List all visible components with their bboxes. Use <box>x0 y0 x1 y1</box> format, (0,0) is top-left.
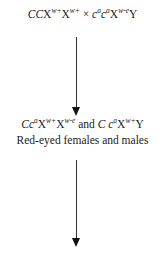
cross-symbol: × <box>83 8 90 20</box>
conjunction: and <box>78 118 95 130</box>
allele-sup: w-e <box>64 116 75 125</box>
offspring-genotypes: CcaXw+Xw-e and C caXw+Y <box>0 118 165 131</box>
allele-sup: w+ <box>51 6 61 15</box>
arrow-head-1-icon <box>72 107 80 116</box>
allele-sup: w-e <box>118 6 129 15</box>
allele-sup: w+ <box>70 6 80 15</box>
offspring-male-genotype: C caXw+Y <box>98 118 144 130</box>
parent-male-genotype: cacaXw-eY <box>92 8 137 20</box>
offspring-female-genotype: CcaXw+Xw-e <box>21 118 75 130</box>
allele: C <box>35 8 43 20</box>
arrow-shaft-1 <box>76 37 77 109</box>
parental-cross: CCXw+Xw+ × cacaXw-eY <box>0 8 165 21</box>
x-chromosome: X <box>61 8 69 20</box>
allele-sup: w+ <box>125 116 135 125</box>
allele: C <box>21 118 29 130</box>
arrow-shaft-2 <box>76 160 77 240</box>
allele: C <box>98 118 106 130</box>
x-chromosome: X <box>38 118 46 130</box>
allele-sup: w+ <box>46 116 56 125</box>
x-chromosome: X <box>110 8 118 20</box>
y-chromosome: Y <box>135 118 143 130</box>
parent-female-genotype: CCXw+Xw+ <box>28 8 80 20</box>
y-chromosome: Y <box>129 8 137 20</box>
offspring-phenotype: Red-eyed females and males <box>0 134 165 147</box>
arrow-head-2-icon <box>72 238 80 247</box>
